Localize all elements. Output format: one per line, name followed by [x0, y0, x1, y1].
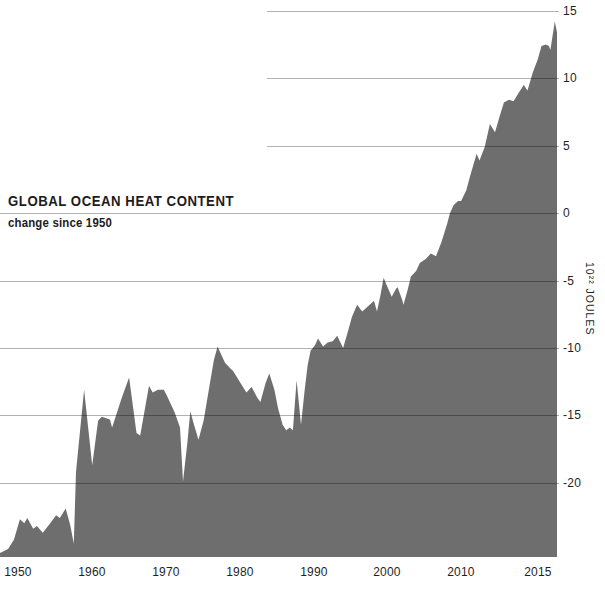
y-tick-label--10: -10	[563, 341, 581, 355]
x-tick-label-2015: 2015	[524, 565, 552, 579]
y-axis-unit-label: 10²² JOULES	[584, 262, 596, 335]
y-tick-label-15: 15	[563, 4, 577, 18]
x-tick-label-1990: 1990	[300, 565, 328, 579]
x-tick-label-1970: 1970	[152, 565, 180, 579]
area-series	[0, 22, 557, 557]
chart: GLOBAL OCEAN HEAT CONTENT change since 1…	[0, 0, 605, 596]
chart-svg	[0, 0, 605, 596]
chart-subtitle: change since 1950	[8, 216, 112, 230]
chart-title: GLOBAL OCEAN HEAT CONTENT	[8, 192, 234, 209]
y-tick-label--15: -15	[563, 408, 581, 422]
x-tick-label-2010: 2010	[447, 565, 475, 579]
x-tick-label-1950: 1950	[4, 565, 32, 579]
y-tick-label-5: 5	[563, 139, 570, 153]
y-tick-label-10: 10	[563, 71, 577, 85]
y-tick-label--5: -5	[563, 274, 574, 288]
y-tick-label-0: 0	[563, 206, 570, 220]
x-tick-label-1980: 1980	[226, 565, 254, 579]
x-tick-label-2000: 2000	[373, 565, 401, 579]
x-tick-label-1960: 1960	[78, 565, 106, 579]
y-tick-label--20: -20	[563, 476, 581, 490]
